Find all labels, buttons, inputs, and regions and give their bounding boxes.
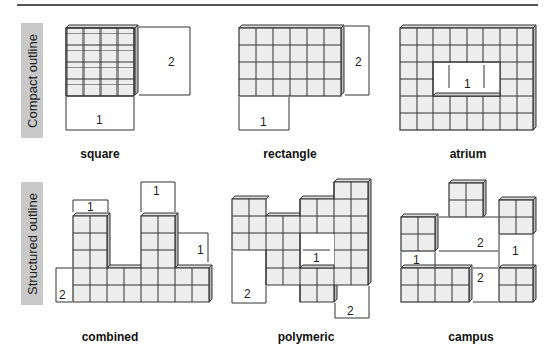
rectangle-diagram: 1 2 bbox=[239, 25, 369, 130]
svg-text:2: 2 bbox=[347, 304, 354, 318]
svg-text:2: 2 bbox=[244, 287, 251, 301]
svg-text:2: 2 bbox=[477, 271, 484, 285]
campus-diagram: 1 2 1 2 bbox=[401, 180, 536, 302]
diagram-canvas: 1 2 1 2 1 1 1 bbox=[0, 0, 556, 363]
polymeric-diagram: 1 2 2 bbox=[232, 179, 371, 318]
caption-campus: campus bbox=[448, 330, 493, 344]
svg-text:1: 1 bbox=[153, 184, 160, 198]
combined-diagram: 1 1 1 2 bbox=[56, 182, 212, 302]
atrium-diagram: 1 bbox=[400, 25, 536, 130]
caption-square: square bbox=[80, 147, 119, 161]
svg-text:1: 1 bbox=[313, 251, 320, 265]
svg-text:1: 1 bbox=[96, 113, 103, 127]
caption-atrium: atrium bbox=[450, 147, 487, 161]
square-diagram: 1 2 bbox=[66, 25, 190, 130]
caption-combined: combined bbox=[82, 330, 139, 344]
caption-rectangle: rectangle bbox=[263, 147, 316, 161]
svg-text:1: 1 bbox=[512, 244, 519, 258]
svg-text:1: 1 bbox=[197, 243, 204, 257]
svg-text:2: 2 bbox=[477, 236, 484, 250]
svg-text:2: 2 bbox=[355, 55, 362, 69]
svg-text:1: 1 bbox=[260, 115, 267, 129]
svg-text:1: 1 bbox=[87, 200, 94, 214]
svg-text:1: 1 bbox=[413, 253, 420, 267]
caption-polymeric: polymeric bbox=[278, 330, 335, 344]
svg-text:2: 2 bbox=[59, 288, 66, 302]
svg-text:1: 1 bbox=[464, 77, 471, 91]
svg-text:2: 2 bbox=[168, 55, 175, 69]
